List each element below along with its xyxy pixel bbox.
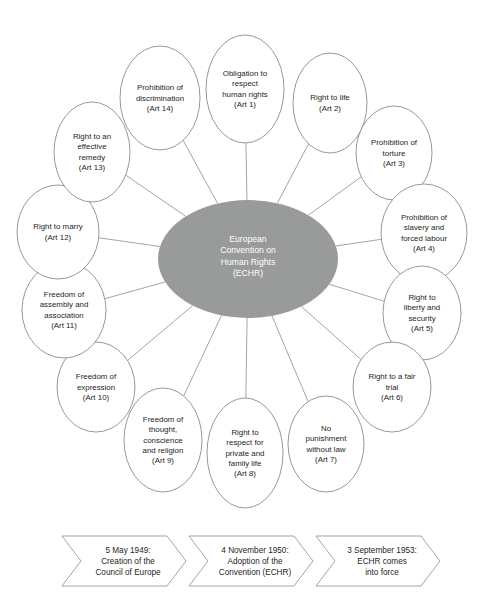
node-art-1[interactable]: Obligation torespecthuman rights(Art 1): [206, 35, 284, 143]
node-art-9[interactable]: Freedom ofthought,conscienceand religion…: [124, 388, 202, 492]
spoke-line-art-13: [126, 175, 186, 216]
spoke-line-art-5: [329, 284, 384, 301]
spoke-line-art-7: [272, 316, 308, 402]
spoke-line-art-12: [99, 238, 160, 247]
spoke-line-art-4: [336, 239, 382, 246]
diagram-canvas: Obligation torespecthuman rights(Art 1)R…: [0, 0, 485, 615]
node-art-7[interactable]: Nopunishmentwithout law(Art 7): [288, 396, 364, 492]
node-art-8[interactable]: Right torespect forprivate andfamily lif…: [207, 398, 283, 508]
chevron-label-timeline-2: 4 November 1950:Adoption of theConventio…: [219, 546, 292, 577]
node-art-6[interactable]: Right to a fairtrial(Art 6): [353, 342, 431, 432]
spoke-line-art-6: [301, 306, 361, 359]
spoke-line-art-3: [308, 177, 361, 215]
timeline-chevron-3[interactable]: 3 September 1953:ECHR comesinto force: [316, 536, 440, 586]
spoke-line-art-2: [277, 144, 308, 203]
node-art-14[interactable]: Prohibition ofdiscrimination(Art 14): [120, 46, 200, 150]
hub-ellipse-group: EuropeanConvention onHuman Rights(ECHR): [158, 200, 338, 318]
timeline-chevron-2[interactable]: 4 November 1950:Adoption of theConventio…: [189, 536, 313, 586]
spoke-line-art-9: [184, 315, 222, 396]
spoke-line-art-11: [105, 282, 165, 299]
spoke-line-art-14: [183, 140, 217, 203]
node-art-2[interactable]: Right to life(Art 2): [293, 53, 367, 153]
spoke-line-art-1: [246, 143, 247, 200]
node-art-13[interactable]: Right to aneffectiveremedy(Art 13): [54, 102, 130, 202]
timeline-row: 5 May 1949:Creation of theCouncil of Eur…: [62, 536, 440, 586]
spoke-line-art-8: [246, 318, 247, 398]
echr-diagram: Obligation torespecthuman rights(Art 1)R…: [0, 0, 485, 615]
spoke-line-art-10: [128, 306, 193, 361]
timeline-chevron-1[interactable]: 5 May 1949:Creation of theCouncil of Eur…: [62, 536, 186, 586]
